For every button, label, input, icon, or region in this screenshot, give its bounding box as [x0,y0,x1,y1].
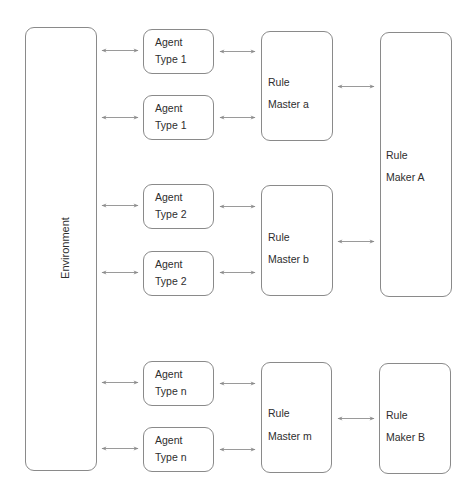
arrows-layer [0,0,476,496]
